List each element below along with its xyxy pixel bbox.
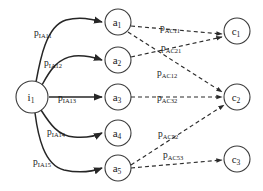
edge-label-sub-a1-c2: AC12 <box>162 72 178 79</box>
edge-label-sub-i1-a4: IA14 <box>52 131 66 138</box>
dashed-edge-a1-c2 <box>128 32 222 92</box>
edge-label-sub-a1-c1: AC11 <box>165 27 180 34</box>
edge-label-a5-c3: pAC53 <box>163 150 183 161</box>
edge-label-a1-c1: pAC11 <box>160 23 180 34</box>
edge-label-a5-c2: pAC52 <box>158 129 178 140</box>
edge-label-sub-i1-a3: IA13 <box>63 97 76 104</box>
node-a2[interactable]: a2 <box>105 47 131 73</box>
solid-edge-i1-a2 <box>42 56 102 85</box>
edge-label-sub-a2-c1: AC21 <box>166 47 182 54</box>
node-label-sub-a5: 5 <box>118 166 122 175</box>
diagram-canvas: i1a1a2a3a4a5c1c2c3 pAC11pAC12pAC21pAC32p… <box>0 0 263 191</box>
edge-label-i1-a4: pIA14 <box>47 127 66 138</box>
edge-label-sub-i1-a5: IA15 <box>38 161 51 168</box>
node-c1[interactable]: c1 <box>224 18 250 44</box>
solid-edge-i1-a1 <box>36 18 102 82</box>
edge-label-a1-c2: pAC12 <box>157 68 177 79</box>
node-a5[interactable]: a5 <box>105 155 131 181</box>
node-i1[interactable]: i1 <box>16 81 48 113</box>
node-label-sub-a3: 3 <box>118 95 122 104</box>
edge-label-i1-a1: pIA11 <box>34 28 52 39</box>
edge-label-a3-c2: pAC32 <box>157 93 177 104</box>
edge-label-i1-a3: pIA13 <box>58 93 76 104</box>
edge-label-i1-a2: pIA12 <box>44 58 62 69</box>
node-a3[interactable]: a3 <box>105 84 131 110</box>
node-a4[interactable]: a4 <box>105 120 131 146</box>
node-label-sub-c2: 2 <box>237 95 241 104</box>
graph-svg: i1a1a2a3a4a5c1c2c3 pAC11pAC12pAC21pAC32p… <box>0 0 263 191</box>
edge-label-sub-a3-c2: AC32 <box>162 97 178 104</box>
node-c2[interactable]: c2 <box>224 84 250 110</box>
node-label-sub-a2: 2 <box>118 58 122 67</box>
node-c3[interactable]: c3 <box>224 146 250 172</box>
edge-label-a2-c1: pAC21 <box>161 43 181 54</box>
edge-label-sub-a5-c3: AC53 <box>168 154 184 161</box>
node-label-sub-a1: 1 <box>118 20 122 29</box>
node-label-sub-a4: 4 <box>118 131 122 140</box>
edge-label-sub-i1-a1: IA11 <box>39 32 52 39</box>
node-a1[interactable]: a1 <box>105 9 131 35</box>
node-label-sub-c3: 3 <box>237 157 241 166</box>
edge-label-sub-i1-a2: IA12 <box>49 62 62 69</box>
node-label-sub-i1: 1 <box>31 95 35 104</box>
node-label-sub-c1: 1 <box>237 29 241 38</box>
edge-label-sub-a5-c2: AC52 <box>163 133 179 140</box>
